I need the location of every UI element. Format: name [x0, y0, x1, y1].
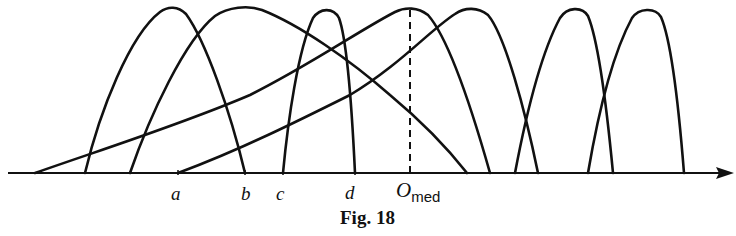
curve-7 [588, 10, 684, 173]
label-o-med: Omed [396, 180, 440, 204]
label-c: c [276, 184, 284, 203]
curve-6 [515, 9, 613, 173]
figure-caption: Fig. 18 [340, 208, 395, 227]
figure-diagram [0, 0, 736, 236]
label-o-main: O [396, 178, 411, 202]
curve-2 [130, 7, 467, 173]
curve-3 [283, 10, 355, 173]
label-d: d [345, 183, 355, 202]
label-o-sub: med [411, 188, 440, 205]
label-b: b [241, 184, 251, 203]
label-a: a [171, 184, 181, 203]
curve-4 [35, 9, 490, 173]
